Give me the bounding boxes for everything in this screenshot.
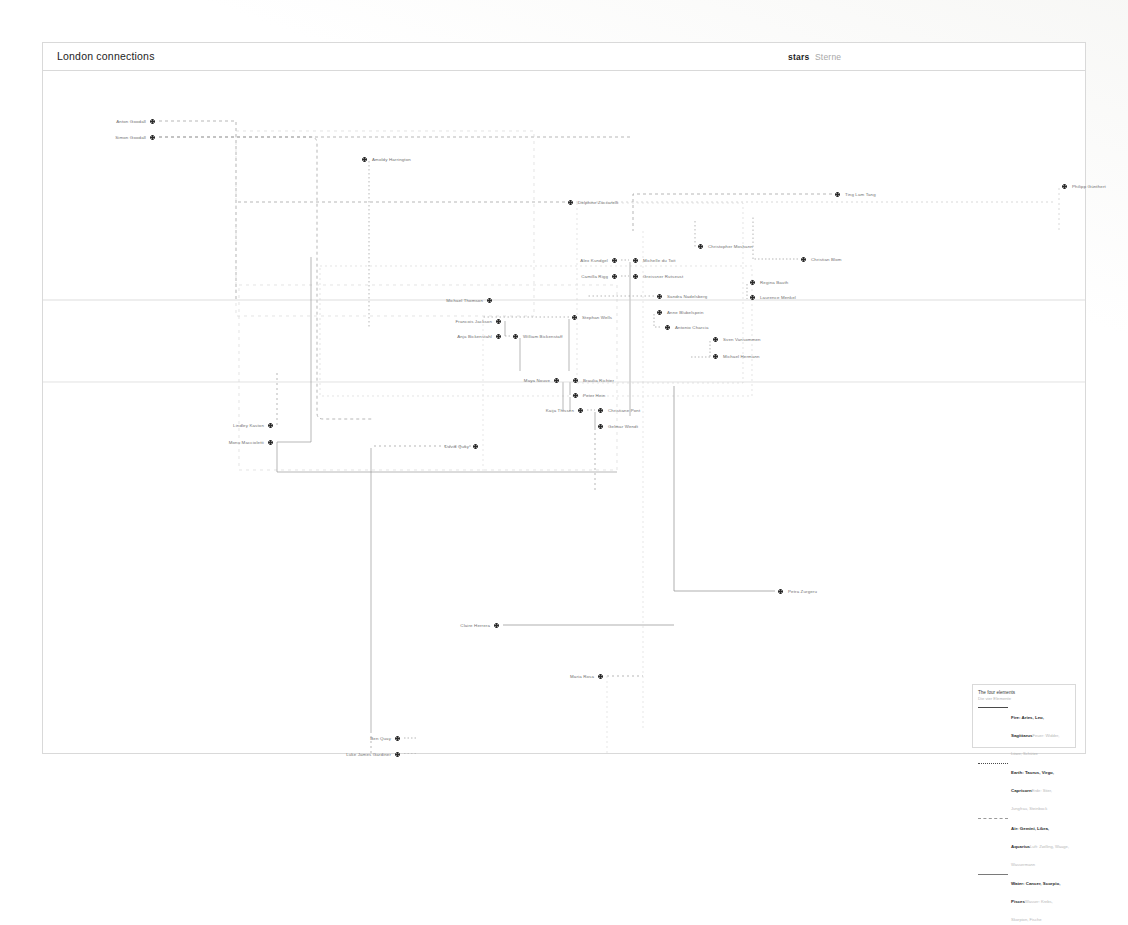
person-node-stephan-wells[interactable]: Stephan Wells — [572, 313, 692, 322]
legend-title-de: Die vier Elemente — [978, 696, 1070, 702]
person-node-peter-hein[interactable]: Peter Hein — [573, 391, 693, 400]
node-marker-icon — [778, 589, 784, 595]
person-label: Francois Jackson — [455, 317, 492, 326]
node-marker-icon — [395, 736, 401, 742]
person-node-regina-bauth[interactable]: Regina Bauth — [750, 278, 870, 287]
person-node-alex-kundgel[interactable]: Alex Kundgel — [498, 256, 618, 265]
person-node-delphine-zuccarelli[interactable]: Delphine Zuccarelli — [568, 198, 688, 207]
legend-row-water: Water: Cancer, Scorpio, PiscesWasser: Kr… — [978, 871, 1070, 925]
stars-label-de: Sterne — [815, 52, 841, 62]
node-marker-icon — [713, 337, 719, 343]
person-node-francois-jackson[interactable]: Francois Jackson — [382, 317, 502, 326]
diagram-canvas: Anton GoodallSimon GoodallAmoldy Harring… — [43, 71, 1085, 754]
person-node-michael-thomson[interactable]: Michael Thomson — [373, 296, 493, 305]
node-marker-icon — [268, 440, 274, 446]
person-node-gelmar-wendt[interactable]: Gelmar Wendt — [598, 422, 718, 431]
person-node-christiane-pont[interactable]: Christiane Pont — [598, 406, 718, 415]
person-node-christopher-moshann[interactable]: Christopher Moshann — [698, 242, 818, 251]
person-node-claire-herrera[interactable]: Claire Herrera — [380, 621, 500, 630]
person-label: Antonio Charcia — [675, 323, 709, 332]
node-marker-icon — [496, 319, 502, 325]
person-node-lindley-kaston[interactable]: Lindley Kaston — [154, 421, 274, 430]
person-label: Maya Nouve — [524, 376, 550, 385]
node-marker-icon — [568, 200, 574, 206]
node-marker-icon — [150, 119, 156, 125]
person-node-ting-lam-tang[interactable]: Ting Lam Tang — [835, 190, 955, 199]
person-node-camilla-rigg[interactable]: Camilla Rigg — [498, 272, 618, 281]
poster-header: London connections stars Sterne — [43, 43, 1085, 71]
node-marker-icon — [750, 280, 756, 286]
legend-row-earth: Earth: Taurus, Virgo, CapricornErde: Sti… — [978, 760, 1070, 814]
person-node-braulia-richter[interactable]: Braulia Richter — [573, 376, 693, 385]
person-label: Peter Hein — [583, 391, 605, 400]
person-label: Sandra Nadelsberg — [667, 292, 707, 301]
person-label: Christian Blom — [811, 255, 842, 264]
person-node-greissner-rutseust[interactable]: Greissner Rutseust — [633, 272, 753, 281]
person-label: Lindley Kaston — [233, 421, 264, 430]
person-node-anton-goodall[interactable]: Anton Goodall — [36, 117, 156, 126]
person-label: Laurence Menkel — [760, 293, 796, 302]
person-node-michelle-du-toit[interactable]: Michelle du Toit — [633, 256, 753, 265]
node-marker-icon — [572, 315, 578, 321]
person-label: Michelle du Toit — [643, 256, 676, 265]
person-node-anja-bickenstahl[interactable]: Anja Bickenstahl — [382, 332, 502, 341]
person-node-sven-vansommen[interactable]: Sven Vansommen — [713, 335, 833, 344]
node-marker-icon — [750, 295, 756, 301]
stars-label-en: stars — [788, 52, 809, 62]
person-node-simon-goodall[interactable]: Simon Goodall — [36, 133, 156, 142]
person-node-kaija-thissen[interactable]: Kaija Thissen — [464, 406, 584, 415]
person-label: Petra Zurgeru — [788, 587, 817, 596]
node-marker-icon — [612, 258, 618, 264]
person-node-christian-blom[interactable]: Christian Blom — [801, 255, 921, 264]
node-marker-icon — [633, 274, 639, 280]
person-label: Ting Lam Tang — [845, 190, 876, 199]
node-marker-icon — [362, 157, 368, 163]
page-title: London connections — [57, 50, 155, 62]
node-marker-icon — [268, 423, 274, 429]
person-label: Michael Hermann — [723, 352, 760, 361]
node-marker-icon — [496, 334, 502, 340]
person-node-antonio-charcia[interactable]: Antonio Charcia — [665, 323, 785, 332]
person-node-william-bickenstaff[interactable]: William Bickenstaff — [513, 332, 633, 341]
node-marker-icon — [395, 752, 401, 758]
person-label: Regina Bauth — [760, 278, 788, 287]
node-marker-icon — [698, 244, 704, 250]
node-marker-icon — [633, 258, 639, 264]
person-node-maya-nouve[interactable]: Maya Nouve — [440, 376, 560, 385]
person-label: Sven Vansommen — [723, 335, 761, 344]
person-node-monu-maccioletti[interactable]: Monu Maccioletti — [154, 438, 274, 447]
node-marker-icon — [494, 623, 500, 629]
node-marker-icon — [665, 325, 671, 331]
person-node-luke-james-gardiner[interactable]: Luke James Gardiner — [281, 750, 401, 759]
legend-line-fire-icon — [978, 707, 1008, 708]
poster-sheet: London connections stars Sterne — [42, 42, 1086, 754]
person-node-laurence-menkel[interactable]: Laurence Menkel — [750, 293, 870, 302]
person-label: Monu Maccioletti — [229, 438, 264, 447]
person-node-philipp-gunthert[interactable]: Philipp Günthert — [1062, 182, 1128, 191]
legend-rows: Fire: Aries, Leo, SagittarusFeuer: Widde… — [978, 705, 1070, 925]
person-node-maria-rosa[interactable]: Maria Rosa — [484, 672, 604, 681]
person-node-david-quay[interactable]: David Quay — [359, 442, 479, 451]
legend-box: The four elements Die vier Elemente Fire… — [972, 684, 1076, 748]
person-label: Claire Herrera — [460, 621, 490, 630]
person-label: Christiane Pont — [608, 406, 640, 415]
person-label: Amoldy Harrington — [372, 155, 411, 164]
node-marker-icon — [598, 674, 604, 680]
node-marker-icon — [487, 298, 493, 304]
node-marker-icon — [554, 378, 560, 384]
node-marker-icon — [578, 408, 584, 414]
node-marker-icon — [835, 192, 841, 198]
person-label: Maria Rosa — [570, 672, 594, 681]
person-label: Stephan Wells — [582, 313, 612, 322]
person-label: Anton Goodall — [116, 117, 146, 126]
legend-line-water-icon — [978, 874, 1008, 875]
person-node-amoldy-harrington[interactable]: Amoldy Harrington — [362, 155, 482, 164]
person-label: Ben Quay — [370, 734, 391, 743]
person-label: Christopher Moshann — [708, 242, 753, 251]
person-node-michael-hermann[interactable]: Michael Hermann — [713, 352, 833, 361]
node-marker-icon — [657, 294, 663, 300]
person-node-ben-quay[interactable]: Ben Quay — [281, 734, 401, 743]
person-label: Delphine Zuccarelli — [578, 198, 618, 207]
node-marker-icon — [598, 408, 604, 414]
person-node-petra-zurgeru[interactable]: Petra Zurgeru — [778, 587, 898, 596]
